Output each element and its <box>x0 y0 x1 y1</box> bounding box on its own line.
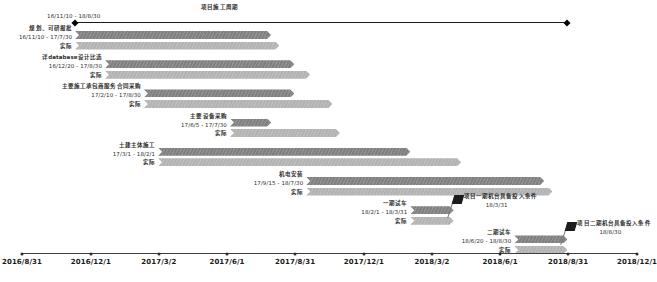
task-name-8: 二期试车 <box>487 229 511 236</box>
milestone-date-2: 18/8/30 <box>599 229 621 236</box>
axis-tick-7 <box>431 252 434 255</box>
axis-tick-8 <box>499 252 502 255</box>
task-plan-bar-1 <box>75 31 271 39</box>
time-axis-line <box>22 253 637 254</box>
milestone-name-2: 项目二期机台具备投入条件 <box>577 220 650 227</box>
task-name-3: 主要施工承包商服务合同采购 <box>62 83 141 90</box>
project-milestone-diamond-1 <box>72 19 79 26</box>
task-name-6: 机电安装 <box>279 171 303 178</box>
axis-tick-3 <box>157 252 160 255</box>
axis-tick-label-7: 2018/3/2 <box>414 259 449 266</box>
task-actual-label-1: 实际 <box>60 43 72 50</box>
axis-tick-label-5: 2017/8/31 <box>275 259 315 266</box>
axis-tick-6 <box>362 252 365 255</box>
milestone-name-1: 项目一期机台具备投入条件 <box>464 193 537 200</box>
task-name-1: 规划、可研报批 <box>29 25 72 32</box>
task-actual-bar-2 <box>105 71 310 79</box>
axis-tick-4 <box>226 252 229 255</box>
task-name-2: 详database设计比选 <box>42 54 102 61</box>
axis-tick-5 <box>294 252 297 255</box>
task-actual-bar-3 <box>144 100 333 108</box>
task-range-2: 16/12/20 - 17/8/30 <box>49 63 102 70</box>
task-name-4: 主要设备采购 <box>190 113 227 120</box>
plan-bar-body <box>75 31 271 39</box>
plan-bar-body <box>144 89 294 97</box>
actual-bar-body <box>144 100 333 108</box>
actual-bar-body <box>158 158 461 166</box>
project-duration-title: 项目施工周期 <box>201 4 238 11</box>
project-duration-line <box>75 22 567 23</box>
axis-tick-label-3: 2017/3/2 <box>141 259 176 266</box>
axis-tick-label-2: 2016/12/1 <box>71 259 111 266</box>
task-plan-bar-8 <box>514 235 567 243</box>
axis-tick-label-1: 2016/8/31 <box>2 259 42 266</box>
axis-tick-label-6: 2017/12/1 <box>344 259 384 266</box>
project-milestone-diamond-2 <box>564 19 571 26</box>
task-actual-label-6: 实际 <box>291 189 303 196</box>
task-plan-bar-2 <box>105 60 294 68</box>
plan-bar-body <box>514 235 567 243</box>
axis-tick-label-8: 2018/6/1 <box>483 259 518 266</box>
task-range-1: 16/11/10 - 17/7/30 <box>19 34 72 41</box>
plan-bar-body <box>230 119 271 127</box>
axis-tick-9 <box>567 252 570 255</box>
task-actual-label-2: 实际 <box>90 72 102 79</box>
task-plan-bar-3 <box>144 89 294 97</box>
task-range-8: 18/6/20 - 18/8/30 <box>462 238 512 245</box>
task-range-5: 17/3/1 - 18/2/1 <box>113 151 155 158</box>
axis-tick-2 <box>89 252 92 255</box>
axis-tick-label-9: 2018/8/31 <box>548 259 588 266</box>
task-plan-bar-6 <box>306 177 544 185</box>
task-actual-label-4: 实际 <box>215 130 227 137</box>
task-range-6: 17/9/15 - 18/7/30 <box>254 180 304 187</box>
task-actual-bar-5 <box>158 158 461 166</box>
gantt-chart: 项目施工周期16/11/10 - 18/8/30规划、可研报批16/11/10 … <box>0 0 657 282</box>
plan-bar-body <box>105 60 294 68</box>
milestone-flag-icon-2 <box>565 222 578 231</box>
actual-bar-body <box>230 129 340 137</box>
task-range-4: 17/6/5 - 17/7/30 <box>181 122 227 129</box>
task-range-7: 18/2/1 - 18/3/31 <box>361 209 407 216</box>
task-range-3: 17/2/10 - 17/8/30 <box>91 92 141 99</box>
axis-tick-10 <box>636 252 639 255</box>
axis-tick-1 <box>21 252 24 255</box>
task-plan-bar-4 <box>230 119 271 127</box>
axis-tick-label-10: 2018/12/1 <box>617 259 657 266</box>
task-actual-bar-4 <box>230 129 340 137</box>
plan-bar-body <box>410 206 453 214</box>
task-actual-label-3: 实际 <box>129 101 141 108</box>
axis-tick-label-4: 2017/6/1 <box>209 259 244 266</box>
task-actual-label-7: 实际 <box>395 218 407 225</box>
task-name-7: 一期试车 <box>383 200 407 207</box>
plan-bar-body <box>306 177 544 185</box>
task-actual-label-5: 实际 <box>143 159 155 166</box>
actual-bar-body <box>105 71 310 79</box>
plan-bar-body <box>158 148 410 156</box>
task-plan-bar-5 <box>158 148 410 156</box>
milestone-flag-icon-1 <box>451 195 464 204</box>
task-actual-bar-1 <box>75 42 279 50</box>
task-name-5: 土建主体施工 <box>119 142 156 149</box>
task-plan-bar-7 <box>410 206 453 214</box>
actual-bar-body <box>75 42 279 50</box>
milestone-date-1: 18/3/31 <box>486 202 508 209</box>
